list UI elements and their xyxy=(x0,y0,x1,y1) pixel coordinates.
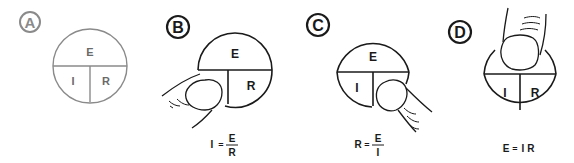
finger-icon xyxy=(501,8,546,70)
panel-label-d: D xyxy=(449,21,471,43)
formula-d: E = I R xyxy=(503,143,536,154)
svg-text:=: = xyxy=(512,144,517,154)
svg-text:=: = xyxy=(218,140,223,150)
segment-i: I xyxy=(71,75,74,87)
svg-text:C: C xyxy=(312,17,324,34)
panel-d: D I R E = I R xyxy=(449,8,556,154)
svg-text:E: E xyxy=(503,143,510,154)
segment-e: E xyxy=(86,46,93,58)
svg-text:I: I xyxy=(211,139,214,150)
panel-label-b: B xyxy=(167,16,189,38)
ohms-law-diagram: A E I R B E R xyxy=(0,0,574,163)
finger-icon xyxy=(376,80,432,132)
svg-text:=: = xyxy=(364,140,369,150)
panel-label-a: A xyxy=(20,12,40,32)
segment-e: E xyxy=(231,47,239,61)
segment-r: R xyxy=(531,86,540,100)
svg-text:A: A xyxy=(25,14,36,31)
svg-text:I R: I R xyxy=(522,143,536,154)
svg-text:I: I xyxy=(377,147,380,158)
svg-text:D: D xyxy=(454,24,466,41)
svg-text:R: R xyxy=(228,147,236,158)
panel-a: A E I R xyxy=(20,12,127,103)
segment-r: R xyxy=(102,75,110,87)
segment-r: R xyxy=(247,79,256,93)
formula-b: I = E R xyxy=(211,133,238,158)
ohms-law-circle-a xyxy=(53,29,127,103)
segment-i: I xyxy=(503,86,506,100)
svg-text:B: B xyxy=(172,19,184,36)
panel-c: C E I R = E I xyxy=(307,14,432,158)
svg-text:E: E xyxy=(375,133,382,144)
formula-c: R = E I xyxy=(354,133,384,158)
segment-i: I xyxy=(355,81,358,95)
finger-icon xyxy=(162,74,222,128)
svg-text:R: R xyxy=(354,139,362,150)
panel-label-c: C xyxy=(307,14,329,36)
panel-b: B E R I = E R xyxy=(162,16,272,158)
segment-e: E xyxy=(369,50,377,64)
svg-text:E: E xyxy=(229,133,236,144)
